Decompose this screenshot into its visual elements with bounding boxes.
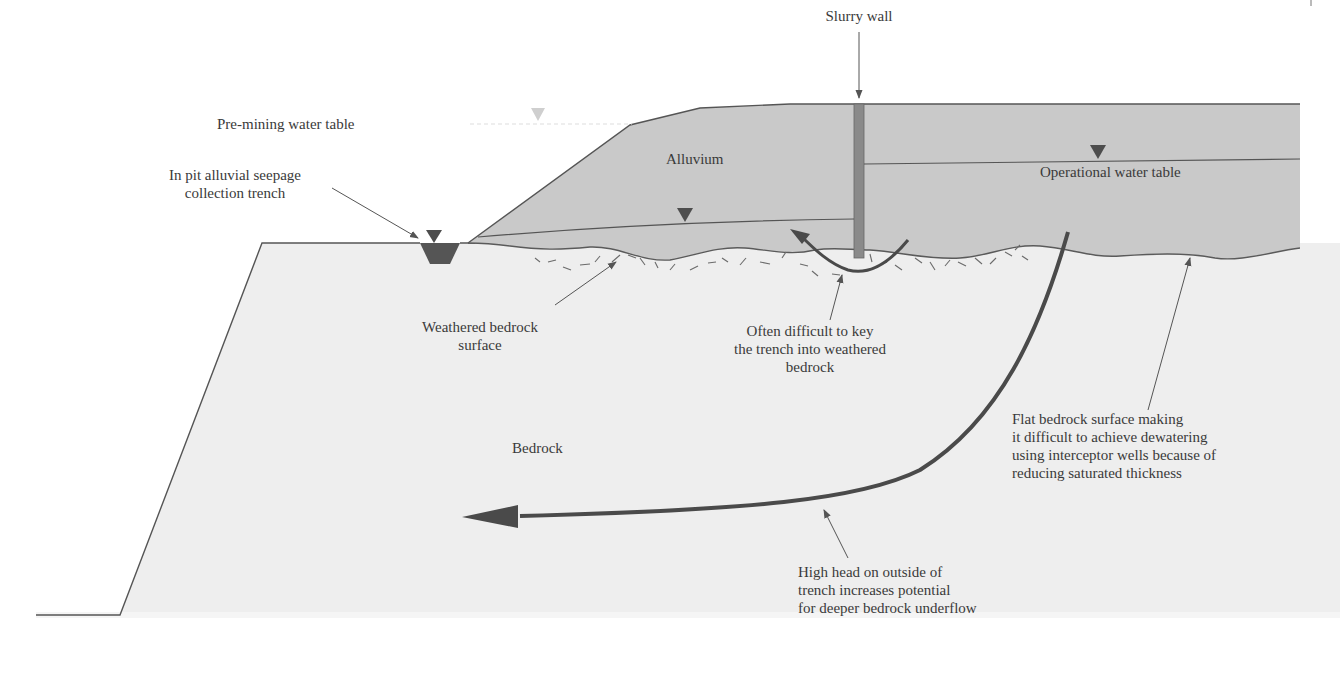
cross-section-diagram: Slurry wall Pre-mining water table Alluv… [0, 0, 1340, 685]
label-high-head-underflow: High head on outside of trench increases… [798, 563, 977, 617]
label-bedrock: Bedrock [512, 439, 563, 457]
label-key-trench-difficulty: Often difficult to key the trench into w… [700, 322, 920, 376]
bedrock-bottom-fade [36, 612, 1340, 618]
premining-water-table-marker [531, 108, 545, 121]
diagram-canvas [0, 0, 1340, 685]
label-operational-water-table: Operational water table [1040, 163, 1181, 181]
trench-water-marker [426, 230, 442, 243]
label-seepage-collection-trench: In pit alluvial seepage collection trenc… [130, 166, 340, 202]
label-slurry-wall: Slurry wall [808, 7, 910, 25]
label-flat-bedrock-surface: Flat bedrock surface making it difficult… [1012, 410, 1216, 482]
alluvium-layer [468, 104, 1300, 260]
label-weathered-bedrock-surface: Weathered bedrock surface [380, 318, 580, 354]
label-premining-water-table: Pre-mining water table [217, 115, 354, 133]
label-alluvium: Alluvium [666, 150, 724, 168]
seepage-trench-leader [332, 188, 418, 238]
slurry-wall [854, 104, 864, 258]
